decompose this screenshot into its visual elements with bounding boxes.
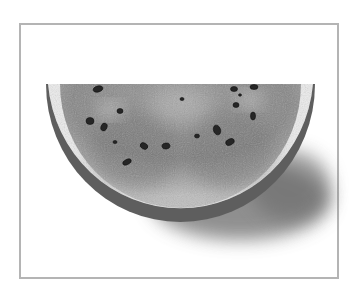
seed: [233, 103, 239, 108]
seed: [180, 98, 184, 101]
seed: [86, 118, 94, 125]
seed: [117, 109, 123, 114]
seed: [113, 141, 117, 144]
seed: [231, 87, 238, 92]
seed: [251, 112, 256, 120]
watermelon-photo: [0, 0, 361, 297]
seed: [239, 94, 242, 96]
seed: [250, 85, 258, 90]
seed: [195, 134, 200, 138]
